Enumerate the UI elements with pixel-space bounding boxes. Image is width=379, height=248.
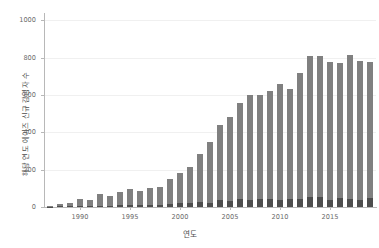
bar (347, 55, 353, 207)
bar-segment-upper (307, 56, 313, 197)
x-tick-mark (180, 207, 181, 210)
x-tick-mark (330, 207, 331, 210)
bar-segment-upper (317, 56, 323, 198)
bar-segment-lower (227, 201, 233, 207)
bar (97, 194, 103, 207)
bar (197, 154, 203, 207)
bar (157, 187, 163, 207)
bar-segment-lower (237, 199, 243, 207)
bar-segment-lower (307, 197, 313, 207)
y-axis-label: 해당 연도 에이즈 신규 감염자 수 (20, 39, 30, 209)
chart-container: 해당 연도 에이즈 신규 감염자 수 연도 02004006008001000 … (0, 0, 379, 248)
bar-segment-upper (247, 95, 253, 201)
x-axis-label: 연도 (0, 228, 379, 239)
bar (357, 61, 363, 207)
bar-segment-upper (237, 103, 243, 199)
bar (307, 56, 313, 207)
bar-segment-upper (127, 189, 133, 205)
bar (277, 84, 283, 207)
bar-segment-lower (297, 199, 303, 207)
bar-segment-upper (137, 191, 143, 206)
bar (237, 103, 243, 207)
bar-segment-lower (187, 203, 193, 207)
bar-segment-lower (217, 200, 223, 207)
bar-segment-lower (167, 204, 173, 207)
bar-segment-upper (327, 62, 333, 200)
bar (87, 200, 93, 207)
bar-segment-lower (337, 198, 343, 207)
bar-segment-lower (257, 199, 263, 207)
bar-segment-lower (277, 200, 283, 207)
bar-segment-upper (117, 192, 123, 205)
bar-segment-lower (367, 198, 373, 207)
x-tick-label: 2000 (165, 213, 195, 221)
bar (227, 117, 233, 207)
y-tick-label: 400 (10, 128, 36, 136)
bar (267, 91, 273, 207)
y-tick-label: 600 (10, 91, 36, 99)
bar-segment-upper (347, 55, 353, 198)
bar-segment-lower (87, 206, 93, 207)
bar-segment-upper (257, 95, 263, 199)
y-tick-label: 200 (10, 166, 36, 174)
bar (247, 95, 253, 207)
bar-segment-lower (107, 206, 113, 207)
bar (77, 199, 83, 207)
bar-segment-upper (297, 73, 303, 199)
x-tick-mark (80, 207, 81, 210)
bar-segment-upper (197, 154, 203, 202)
x-tick-label: 2010 (265, 213, 295, 221)
bar-segment-lower (117, 205, 123, 207)
bar (177, 173, 183, 207)
y-tick-label: 0 (10, 203, 36, 211)
bar-segment-upper (187, 167, 193, 202)
bar (137, 191, 143, 207)
bar-segment-upper (357, 61, 363, 200)
bar (257, 95, 263, 207)
bar-segment-upper (217, 125, 223, 200)
y-tick-label: 1000 (10, 16, 36, 24)
x-tick-mark (130, 207, 131, 210)
bar-segment-upper (337, 63, 343, 198)
bar-segment-lower (207, 203, 213, 207)
x-axis-line (44, 207, 377, 208)
y-tick-label: 800 (10, 54, 36, 62)
bar-segment-upper (107, 196, 113, 205)
bar (107, 196, 113, 207)
x-tick-label: 2015 (315, 213, 345, 221)
bar-segment-lower (137, 205, 143, 207)
bar-segment-lower (327, 200, 333, 207)
bar-segment-upper (177, 173, 183, 202)
bar (127, 189, 133, 207)
bar-segment-upper (267, 91, 273, 199)
bar (47, 206, 53, 207)
x-tick-mark (280, 207, 281, 210)
bar-segment-upper (97, 194, 103, 206)
bar-segment-upper (227, 117, 233, 201)
bar (147, 188, 153, 207)
bar (207, 142, 213, 207)
bar (67, 203, 73, 207)
bar-segment-lower (127, 205, 133, 207)
bar-segment-lower (177, 203, 183, 207)
bar-segment-lower (247, 200, 253, 207)
x-tick-label: 2005 (215, 213, 245, 221)
bar-segment-lower (197, 202, 203, 207)
bar-segment-lower (317, 197, 323, 207)
bar (117, 192, 123, 207)
bar (217, 125, 223, 207)
bar-segment-upper (287, 89, 293, 199)
x-tick-label: 1995 (115, 213, 145, 221)
bar (297, 73, 303, 207)
bar-segment-lower (287, 199, 293, 207)
bar-segment-lower (67, 206, 73, 207)
bar (187, 167, 193, 207)
x-tick-label: 1990 (65, 213, 95, 221)
bar (337, 63, 343, 207)
bar-segment-lower (267, 199, 273, 207)
x-tick-mark (230, 207, 231, 210)
bar (167, 179, 173, 207)
bar-segment-lower (157, 205, 163, 207)
bar-segment-lower (347, 199, 353, 207)
bar-segment-lower (147, 205, 153, 207)
